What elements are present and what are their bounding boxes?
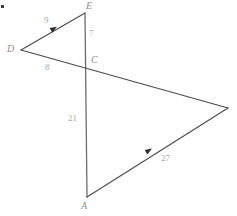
vertex-label-D: D: [7, 44, 14, 54]
marker-on-AB-icon: [145, 146, 154, 154]
figure-canvas: [0, 0, 237, 216]
length-label-CA: 21: [68, 114, 77, 123]
segments-group: [21, 13, 228, 197]
length-label-EC: 7: [89, 29, 94, 38]
geometry-figure: E D C A 9 7 8 21 27: [0, 0, 237, 216]
segment-DB: [21, 50, 228, 108]
segment-AB: [87, 108, 228, 197]
vertex-label-A: A: [81, 201, 87, 211]
vertex-label-C: C: [91, 55, 98, 65]
segment-EA: [85, 13, 87, 197]
length-label-DE: 9: [44, 16, 49, 25]
length-label-DC: 8: [45, 63, 50, 72]
vertex-label-E: E: [86, 1, 92, 11]
tick-markers-group: [50, 25, 154, 155]
length-label-AB: 27: [161, 154, 170, 163]
